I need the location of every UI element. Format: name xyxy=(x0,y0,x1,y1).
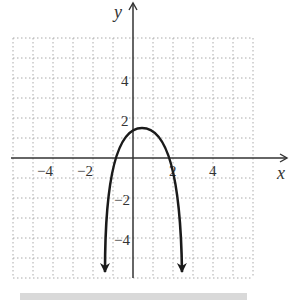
caption-bar xyxy=(20,293,247,300)
x-tick-label: −4 xyxy=(37,163,53,179)
y-tick-label: −2 xyxy=(114,192,130,208)
parabola-graph: y x −4 −2 2 4 4 2 −2 −4 xyxy=(0,0,299,300)
x-tick-label: 4 xyxy=(209,163,217,179)
y-tick-label: 2 xyxy=(121,113,129,129)
parabola-curve xyxy=(142,128,182,272)
x-axis-label: x xyxy=(276,163,285,183)
y-tick-label: −4 xyxy=(114,232,130,248)
x-tick-label: −2 xyxy=(77,163,93,179)
y-tick-label: 4 xyxy=(121,73,129,89)
y-axis-label: y xyxy=(112,2,122,22)
